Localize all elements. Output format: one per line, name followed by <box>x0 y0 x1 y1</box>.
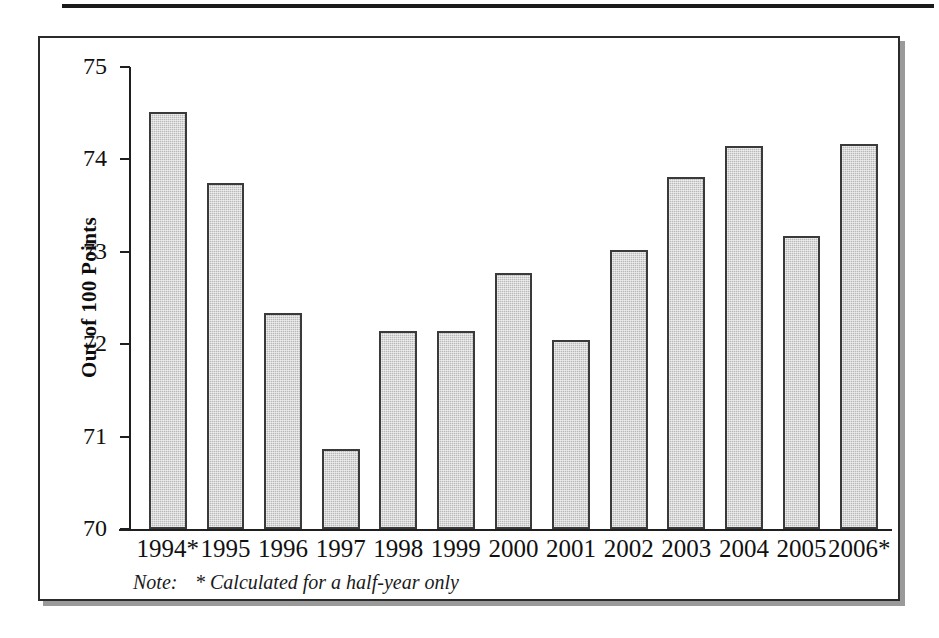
y-tick-mark-70 <box>120 528 130 530</box>
bar-2000 <box>495 273 533 529</box>
figure-frame: Out of 100 Points 707172737475 1994*1995… <box>38 36 900 601</box>
bar-1999 <box>437 331 475 529</box>
note-text: * Calculated for a half-year only <box>195 571 459 594</box>
bar-2001 <box>552 340 590 529</box>
note-label: Note: <box>133 571 195 594</box>
y-axis-line <box>129 67 131 531</box>
x-tick-label-1998: 1998 <box>365 536 431 562</box>
bar-2005 <box>783 236 821 529</box>
y-tick-label-74: 74 <box>61 146 107 170</box>
bar-1995 <box>207 183 245 530</box>
x-tick-label-2005: 2005 <box>769 536 835 562</box>
y-tick-mark-72 <box>120 343 130 345</box>
bar-2004 <box>725 146 763 529</box>
y-tick-mark-71 <box>120 436 130 438</box>
bar-chart-plot-area: Out of 100 Points 707172737475 1994*1995… <box>40 38 902 603</box>
y-tick-mark-73 <box>120 251 130 253</box>
x-tick-label-2002: 2002 <box>596 536 662 562</box>
x-tick-label-2004: 2004 <box>711 536 777 562</box>
y-tick-label-73: 73 <box>61 239 107 263</box>
bar-2003 <box>667 177 705 529</box>
x-axis-line <box>119 529 892 531</box>
x-tick-label-1994-star: 1994* <box>135 536 201 562</box>
x-tick-label-2000: 2000 <box>481 536 547 562</box>
x-tick-label-2006-star: 2006* <box>826 536 892 562</box>
bar-1998 <box>379 331 417 529</box>
x-tick-label-1995: 1995 <box>193 536 259 562</box>
y-tick-label-70: 70 <box>61 516 107 540</box>
y-tick-label-75: 75 <box>61 54 107 78</box>
x-tick-label-2001: 2001 <box>538 536 604 562</box>
y-axis-title: Out of 100 Points <box>77 183 102 413</box>
x-tick-label-1996: 1996 <box>250 536 316 562</box>
y-tick-label-72: 72 <box>61 331 107 355</box>
y-tick-mark-75 <box>120 66 130 68</box>
chart-note: Note:* Calculated for a half-year only <box>133 571 459 594</box>
top-horizontal-rule <box>62 4 934 8</box>
bar-1996 <box>264 313 302 529</box>
x-tick-label-1997: 1997 <box>308 536 374 562</box>
y-tick-mark-74 <box>120 158 130 160</box>
x-tick-label-1999: 1999 <box>423 536 489 562</box>
bar-1994-star <box>149 112 187 529</box>
y-tick-label-71: 71 <box>61 424 107 448</box>
bar-2002 <box>610 250 648 529</box>
bar-1997 <box>322 449 360 529</box>
bar-2006-star <box>840 144 878 529</box>
x-tick-label-2003: 2003 <box>654 536 720 562</box>
